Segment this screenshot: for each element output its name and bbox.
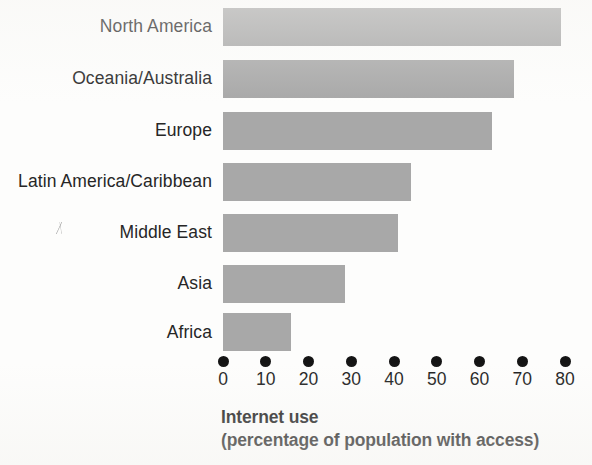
- tick-dot-icon-80: [560, 356, 571, 367]
- tick-dot-icon-10: [260, 356, 271, 367]
- x-tick-label-70: 70: [502, 371, 542, 389]
- bar-row-europe: [223, 112, 492, 150]
- axis-title-line-2: (percentage of population with access): [221, 429, 539, 452]
- x-tick-label-10: 10: [246, 371, 286, 389]
- category-label-latin-america-caribbean: Latin America/Caribbean: [0, 173, 212, 191]
- category-label-north-america: North America: [0, 18, 212, 36]
- axis-title-line-1: Internet use: [221, 406, 539, 429]
- category-label-europe: Europe: [0, 122, 212, 140]
- bar-asia: [223, 265, 345, 303]
- category-label-oceania-australia: Oceania/Australia: [0, 70, 212, 88]
- category-label-africa: Africa: [0, 324, 212, 342]
- bar-row-latin-america-caribbean: [223, 163, 411, 201]
- x-tick-label-30: 30: [331, 371, 371, 389]
- x-tick-10: 10: [246, 356, 286, 389]
- x-tick-label-0: 0: [203, 371, 243, 389]
- x-axis: 01020304050607080: [0, 356, 592, 398]
- x-tick-label-80: 80: [545, 371, 585, 389]
- x-tick-label-20: 20: [289, 371, 329, 389]
- bar-row-middle-east: [223, 214, 398, 252]
- bar-africa: [223, 313, 291, 351]
- bar-row-oceania-australia: [223, 60, 514, 98]
- bar-row-asia: [223, 265, 345, 303]
- bar-chart-figure: North America Oceania/Australia Europe L…: [0, 0, 592, 465]
- x-tick-20: 20: [289, 356, 329, 389]
- tick-dot-icon-70: [517, 356, 528, 367]
- tick-dot-icon-0: [218, 356, 229, 367]
- category-label-asia: Asia: [0, 275, 212, 293]
- bar-oceania-australia: [223, 60, 514, 98]
- x-tick-0: 0: [203, 356, 243, 389]
- x-tick-label-40: 40: [374, 371, 414, 389]
- tick-dot-icon-60: [474, 356, 485, 367]
- tick-dot-icon-40: [389, 356, 400, 367]
- bar-europe: [223, 112, 492, 150]
- x-tick-60: 60: [460, 356, 500, 389]
- tick-dot-icon-30: [346, 356, 357, 367]
- bar-north-america: [223, 8, 561, 46]
- bar-row-north-america: [223, 8, 561, 46]
- bar-latin-america-caribbean: [223, 163, 411, 201]
- tick-dot-icon-20: [303, 356, 314, 367]
- x-tick-label-50: 50: [417, 371, 457, 389]
- x-tick-70: 70: [502, 356, 542, 389]
- tick-dot-icon-50: [431, 356, 442, 367]
- axis-title: Internet use (percentage of population w…: [221, 406, 539, 452]
- x-tick-50: 50: [417, 356, 457, 389]
- x-tick-80: 80: [545, 356, 585, 389]
- x-tick-40: 40: [374, 356, 414, 389]
- bar-middle-east: [223, 214, 398, 252]
- x-tick-label-60: 60: [460, 371, 500, 389]
- x-tick-30: 30: [331, 356, 371, 389]
- category-label-middle-east: Middle East: [0, 224, 212, 242]
- bar-row-africa: [223, 313, 291, 351]
